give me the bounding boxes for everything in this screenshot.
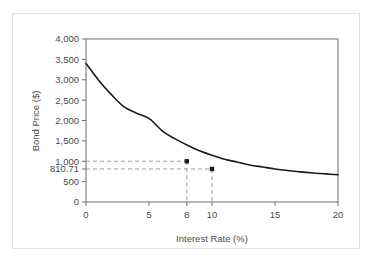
y-tick-label: 3,000 — [55, 74, 79, 85]
data-point-marker — [185, 159, 189, 163]
y-tick-label: 500 — [63, 176, 79, 187]
x-tick-label: 15 — [270, 209, 281, 220]
y-tick-label: 1,000 — [55, 156, 79, 167]
chart-svg: 0500810.711,0001,5002,0002,5003,0003,500… — [13, 14, 361, 250]
y-tick-label: 1,500 — [55, 135, 79, 146]
y-tick-label: 2,000 — [55, 115, 79, 126]
y-tick-label: 2,500 — [55, 95, 79, 106]
y-tick-label: 4,000 — [55, 33, 79, 44]
x-axis-ticks — [86, 202, 338, 206]
y-axis-title: Bond Price ($) — [30, 91, 41, 152]
x-axis-title: Interest Rate (%) — [176, 233, 248, 244]
x-tick-label: 8 — [184, 209, 189, 220]
y-tick-label: 3,500 — [55, 54, 79, 65]
figure-card: 0500810.711,0001,5002,0002,5003,0003,500… — [12, 13, 360, 249]
y-tick-label: 0 — [74, 196, 79, 207]
x-tick-label: 20 — [333, 209, 344, 220]
bond-price-chart: 0500810.711,0001,5002,0002,5003,0003,500… — [13, 14, 361, 250]
x-tick-label: 10 — [207, 209, 218, 220]
x-axis-tick-labels: 058101520 — [83, 209, 343, 220]
x-tick-label: 0 — [83, 209, 88, 220]
data-point-marker — [210, 167, 214, 171]
x-tick-label: 5 — [146, 209, 151, 220]
y-axis-tick-labels: 0500810.711,0001,5002,0002,5003,0003,500… — [50, 33, 79, 207]
